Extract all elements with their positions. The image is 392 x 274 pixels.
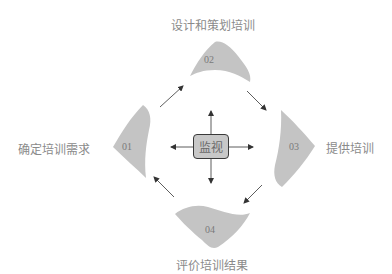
arrow-01-to-02 — [160, 86, 183, 107]
arrow-04-to-01 — [154, 177, 174, 197]
step-03-number: 03 — [289, 141, 299, 152]
step-02-number: 02 — [204, 54, 214, 65]
step-02-label: 设计和策划培训 — [171, 16, 255, 33]
step-01-number: 01 — [122, 141, 132, 152]
monitor-label: 监视 — [199, 138, 223, 155]
step-03-label: 提供培训 — [326, 139, 374, 156]
step-04-label: 评价培训结果 — [176, 256, 248, 273]
arrow-03-to-04 — [244, 185, 262, 203]
step-04-number: 04 — [205, 224, 215, 235]
step-01-label: 确定培训需求 — [18, 140, 90, 157]
step-02-shape — [190, 42, 250, 82]
arrow-02-to-03 — [247, 91, 266, 110]
monitor-box: 监视 — [193, 134, 229, 159]
